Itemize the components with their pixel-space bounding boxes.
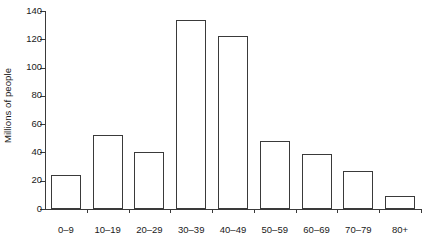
bar xyxy=(385,196,415,209)
x-tick-mark xyxy=(337,209,338,213)
bar xyxy=(51,175,81,209)
bar-chart-figure: Millions of people 020406080100120140 0–… xyxy=(0,0,425,243)
bar xyxy=(176,20,206,210)
x-tick-label: 80+ xyxy=(379,224,421,236)
y-tick-group: 80 xyxy=(45,96,46,97)
x-tick-label: 50–59 xyxy=(254,224,296,236)
x-tick-label: 10–19 xyxy=(87,224,129,236)
y-tick-label: 80 xyxy=(31,89,42,101)
x-tick-mark xyxy=(212,209,213,213)
bar xyxy=(134,152,164,209)
bar xyxy=(218,36,248,209)
x-tick-mark xyxy=(170,209,171,213)
x-tick-label: 30–39 xyxy=(170,224,212,236)
x-tick-label: 0–9 xyxy=(45,224,87,236)
x-tick-label: 70–79 xyxy=(337,224,379,236)
y-tick-label: 100 xyxy=(26,61,42,73)
y-tick-group: 140 xyxy=(45,11,46,12)
y-tick-group: 40 xyxy=(45,152,46,153)
y-tick-label: 40 xyxy=(31,146,42,158)
y-tick-group: 60 xyxy=(45,124,46,125)
x-tick-mark xyxy=(254,209,255,213)
y-tick-label: 0 xyxy=(37,203,42,215)
y-tick-label: 140 xyxy=(26,5,42,17)
x-tick-mark xyxy=(129,209,130,213)
x-tick-label: 40–49 xyxy=(212,224,254,236)
y-tick-group: 120 xyxy=(45,39,46,40)
y-axis-title: Millions of people xyxy=(0,0,16,210)
y-axis-title-label: Millions of people xyxy=(3,67,14,142)
bar xyxy=(302,154,332,209)
bar xyxy=(260,141,290,209)
y-axis-line xyxy=(45,11,46,209)
x-tick-label: 20–29 xyxy=(129,224,171,236)
x-tick-mark xyxy=(87,209,88,213)
y-tick-group: 20 xyxy=(45,181,46,182)
x-tick-mark xyxy=(421,209,422,213)
y-tick-group: 100 xyxy=(45,68,46,69)
x-tick-label: 60–69 xyxy=(296,224,338,236)
y-tick-label: 120 xyxy=(26,33,42,45)
y-tick-group: 0 xyxy=(45,209,46,210)
bar xyxy=(343,171,373,209)
x-axis-line xyxy=(45,209,421,210)
y-tick-label: 60 xyxy=(31,118,42,130)
x-tick-mark xyxy=(296,209,297,213)
plot-area: 020406080100120140 0–910–1920–2930–3940–… xyxy=(45,11,421,209)
bar xyxy=(93,135,123,209)
y-tick-label: 20 xyxy=(31,174,42,186)
x-tick-mark xyxy=(379,209,380,213)
